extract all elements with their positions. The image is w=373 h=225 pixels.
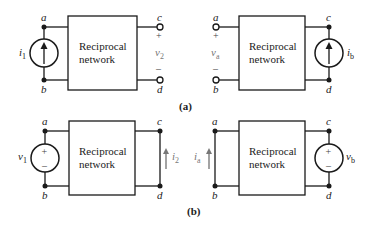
node-label-c: c [157,115,162,127]
node-label-a: a [41,11,47,23]
network-label-line2: network [249,158,286,170]
network-label-line1: Reciprocal [249,145,297,157]
node-dot-d [327,78,332,83]
caption-b: (b) [187,205,201,218]
node-dot-a [43,129,48,134]
plus-sign: + [156,30,162,41]
up-arrow-icon [206,148,212,154]
minus-sign: – [212,63,219,74]
panel-b-left: Reciprocal network + – a b c d v1 i2 [18,115,179,201]
network-label-line2: network [79,158,116,170]
node-label-a: a [42,115,48,127]
node-dot-b [43,184,48,189]
network-label-line1: Reciprocal [249,40,297,52]
node-dot-c [327,25,332,30]
node-label-d: d [326,189,332,201]
source-minus-sign: – [325,160,332,171]
node-label-b: b [42,189,48,201]
network-label-line2: network [249,53,286,65]
node-label-a: a [213,11,219,23]
panel-b-right: Reciprocal network + – a b c d vb ia [194,115,355,201]
source-plus-sign: + [326,146,332,157]
node-dot-b [42,78,47,83]
node-dot-d [327,184,332,189]
reciprocity-diagram: Reciprocal network a b c d i1 + v2 – Rec… [0,0,373,225]
node-dot-a [213,129,218,134]
plus-sign: + [213,30,219,41]
node-label-b: b [212,189,218,201]
output-current-label: ia [194,150,201,165]
network-label-line1: Reciprocal [79,145,127,157]
node-dot-d [158,184,163,189]
node-label-d: d [157,189,163,201]
output-voltage-label: v2 [155,46,164,61]
source-minus-sign: – [41,160,48,171]
minus-sign: – [155,63,162,74]
up-arrow-icon [163,148,169,154]
node-label-a: a [212,115,218,127]
panel-a-left: Reciprocal network a b c d i1 + v2 – [19,11,164,95]
network-label-line2: network [79,53,116,65]
panel-a-right: Reciprocal network a b c d ib + va – [211,11,354,95]
node-dot-c [327,129,332,134]
node-dot-a [42,25,47,30]
node-dot-b [213,184,218,189]
source-label: ib [347,46,354,61]
network-label-line1: Reciprocal [79,40,127,52]
node-label-d: d [326,83,332,95]
node-dot-c [158,129,163,134]
caption-a: (a) [179,100,192,113]
node-label-b: b [41,83,47,95]
node-label-c: c [326,11,331,23]
node-label-c: c [157,11,162,23]
output-voltage-label: va [211,46,220,61]
source-plus-sign: + [42,146,48,157]
output-current-label: i2 [172,150,179,165]
node-label-d: d [157,83,163,95]
source-label: v1 [18,150,27,165]
source-label: i1 [19,46,26,61]
source-label: vb [346,150,355,165]
node-label-c: c [326,115,331,127]
node-label-b: b [213,83,219,95]
